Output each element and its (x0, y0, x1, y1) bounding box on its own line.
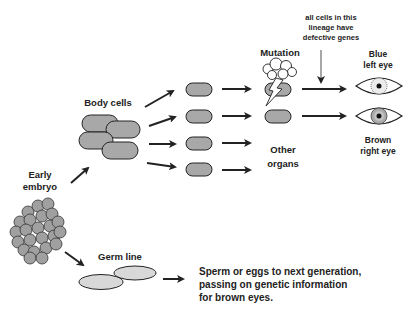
germ-cells (79, 266, 156, 290)
offspring-text-2: passing on genetic information (199, 279, 347, 290)
body-cells-label: Body cells (84, 97, 132, 108)
germ-line-label: Germ line (98, 251, 142, 262)
annotation-line-3: defective genes (303, 33, 359, 42)
brown-eye-label: Brown (365, 135, 391, 145)
annotation-line-1: all cells in this (305, 13, 356, 22)
arrow-embryo-to-body (71, 168, 88, 183)
normal-cell (265, 110, 291, 123)
body-cells-cluster (79, 115, 140, 159)
arrow-body-to-cell-4 (147, 163, 175, 167)
brown-eye-label-2: right eye (360, 146, 396, 156)
brown-eye-icon (356, 108, 402, 124)
arrow-body-to-cell-2 (149, 117, 175, 126)
other-organs-label: Other (270, 144, 296, 155)
early-embryo-label-2: embryo (23, 181, 58, 192)
genetic-mosaic-diagram: Early embryo Body cells Mutation (0, 0, 415, 314)
offspring-text-1: Sperm or eggs to next generation, (199, 266, 361, 277)
arrow-embryo-to-germ (65, 252, 83, 265)
blue-eye-label-2: left eye (363, 60, 393, 70)
annotation-line-2: lineage have (308, 23, 353, 32)
early-embryo-label: Early (28, 169, 52, 180)
blue-eye-icon (356, 78, 402, 94)
cloud-icon (263, 58, 297, 80)
arrow-body-to-cell-1 (145, 91, 173, 107)
other-organs-label-2: organs (267, 158, 299, 169)
blue-eye-label: Blue (369, 49, 388, 59)
mutation-label: Mutation (260, 47, 300, 58)
early-embryo-cluster (10, 198, 66, 264)
offspring-text-3: for brown eyes. (199, 292, 273, 303)
lineage-cells (186, 83, 212, 176)
